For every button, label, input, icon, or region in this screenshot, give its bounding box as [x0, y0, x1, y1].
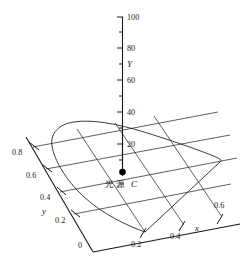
v-label-100: 100: [127, 13, 139, 22]
x-label-0.6: 0.6: [214, 201, 224, 210]
grid-line-y-0.8: [33, 112, 218, 147]
v-label-60: 60: [127, 76, 135, 85]
y-axis-ticks: [29, 142, 80, 217]
v-label-20: 20: [127, 140, 135, 149]
grid-line-y-0.4: [60, 158, 237, 192]
illuminant-c-label-cjk: 光 源: [105, 179, 125, 189]
illuminant-c-dot: [119, 169, 126, 176]
grid-line-x-0.4: [115, 123, 184, 225]
plot-canvas: 100 80 60 40 20 Y 0.8 0.6 0.4 0.2 0 y 0.…: [0, 0, 245, 268]
y-axis-label: y: [41, 206, 46, 216]
base-plane-axes: [26, 137, 240, 252]
x-label-0.2: 0.2: [131, 240, 141, 249]
v-label-80: 80: [127, 44, 135, 53]
y-axis-line: [26, 137, 93, 252]
chromaticity-3d-figure: 100 80 60 40 20 Y 0.8 0.6 0.4 0.2 0 y 0.…: [0, 0, 245, 268]
illuminant-c-label-letter: C: [131, 179, 138, 189]
y-label-0.4: 0.4: [40, 193, 50, 202]
x-axis-line: [93, 224, 240, 252]
x-axis-ticks: [140, 214, 223, 238]
x-axis-label: x: [194, 223, 199, 233]
vertical-axis-label: Y: [127, 59, 133, 69]
purple-boundary-path: [145, 161, 221, 232]
y-label-0.6: 0.6: [26, 171, 36, 180]
base-plane-grid: [33, 112, 237, 232]
x-tick-0.6: [217, 214, 223, 224]
grid-line-y-0.2: [74, 184, 231, 214]
x-label-0.4: 0.4: [170, 232, 180, 241]
y-label-0: 0: [78, 241, 82, 250]
y-label-0.8: 0.8: [12, 148, 22, 157]
grid-line-x-0.6: [154, 116, 222, 217]
y-label-0.2: 0.2: [55, 216, 65, 225]
v-label-40: 40: [127, 108, 135, 117]
